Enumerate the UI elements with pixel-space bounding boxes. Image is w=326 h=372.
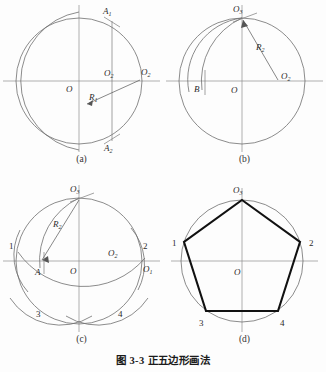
label-r2: R2	[52, 219, 62, 230]
label-point-2: 2	[143, 241, 148, 251]
label-o3: O3	[233, 185, 243, 196]
tick-o3	[233, 13, 257, 22]
sublabel-b: (b)	[163, 154, 326, 164]
label-center-o: O	[70, 266, 77, 276]
panel-d: O3 1 2 3 4 O	[163, 180, 326, 350]
label-a1: A1	[102, 6, 112, 17]
sublabel-d: (d)	[163, 334, 326, 344]
label-o3: O3	[70, 184, 80, 195]
panel-c: O3 1 2 3 4 A O O2 O1 R2	[0, 180, 163, 350]
panel-b: O3 B O O2 R2	[163, 0, 326, 170]
figure-caption: 图 3-3 正五边形画法	[0, 352, 326, 367]
figure-pentagon-construction: A1 A2 O O2 O2 R1 O3 B O O2	[0, 0, 326, 372]
label-o1: O1	[143, 264, 153, 275]
radius-line-r2	[42, 200, 79, 260]
sublabel-a: (a)	[0, 154, 163, 164]
radius-arrowhead-r2	[42, 256, 49, 263]
label-o2: O2	[108, 248, 118, 259]
label-o2: O2	[281, 71, 291, 82]
arc-r2-left	[201, 18, 242, 90]
label-r2: R2	[255, 42, 265, 53]
label-point-4: 4	[118, 309, 123, 319]
label-a2: A2	[103, 143, 113, 154]
sublabel-c: (c)	[0, 334, 163, 344]
label-point-3: 3	[36, 309, 41, 319]
label-center-o: O	[234, 267, 241, 277]
label-a: A	[34, 267, 41, 277]
arc-point-2	[131, 228, 144, 290]
label-vertex-3: 3	[199, 318, 204, 328]
label-o1: O2	[141, 67, 151, 78]
label-o3: O3	[233, 4, 243, 15]
tick-o3	[70, 193, 94, 202]
panel-a: A1 A2 O O2 O2 R1	[0, 0, 163, 170]
arc-r2	[40, 198, 79, 268]
label-point-1: 1	[9, 241, 14, 251]
label-vertex-4: 4	[280, 318, 285, 328]
label-vertex-1: 1	[172, 238, 177, 248]
arc-point-4	[66, 298, 148, 325]
arc-point-3	[10, 298, 92, 325]
label-center-o: O	[66, 84, 73, 94]
label-vertex-2: 2	[309, 238, 314, 248]
label-r1: R1	[88, 92, 98, 103]
label-center-o: O	[231, 85, 238, 95]
label-b: B	[194, 84, 200, 94]
